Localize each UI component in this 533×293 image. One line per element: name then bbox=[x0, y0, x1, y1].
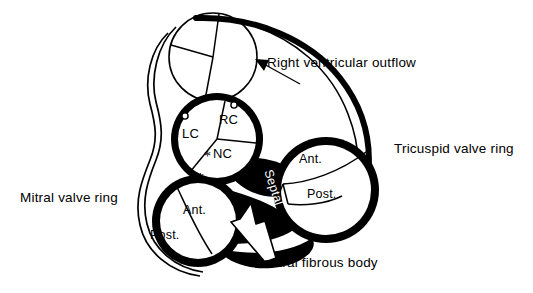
aortic-cusp-label-nc: NC bbox=[213, 146, 232, 161]
callout-tricuspid-valve-ring: Tricuspid valve ring bbox=[394, 141, 514, 156]
mitral-leaflet-label-ant: Ant. bbox=[183, 203, 206, 217]
pulmonary-valve bbox=[169, 13, 257, 101]
aortic-cusp-label-lc: LC bbox=[182, 126, 199, 141]
figure-canvas: Right ventricular outflow Tricuspid valv… bbox=[0, 0, 533, 293]
tricuspid-leaflet-label-ant: Ant. bbox=[299, 152, 322, 166]
aortic-cusp-label-rc: RC bbox=[219, 112, 238, 127]
callout-right-ventricular-outflow: Right ventricular outflow bbox=[267, 55, 416, 70]
tricuspid-leaflet-label-post: Post. bbox=[307, 187, 337, 201]
asterisk-aortic-mitral-continuity: * bbox=[204, 150, 211, 164]
left-coronary-ostium-icon bbox=[182, 113, 188, 119]
right-coronary-ostium-icon bbox=[231, 102, 237, 108]
asterisk-mitral-ring: * bbox=[197, 172, 204, 186]
callout-central-fibrous-body: Central fibrous body bbox=[253, 255, 378, 270]
mitral-leaflet-label-post: Post. bbox=[150, 228, 180, 242]
callout-mitral-valve-ring: Mitral valve ring bbox=[20, 190, 118, 205]
